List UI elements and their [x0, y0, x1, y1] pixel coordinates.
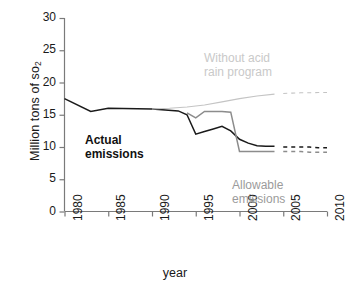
axis-lines	[65, 18, 328, 212]
y-axis-ticks	[60, 19, 65, 213]
x-tick-label: 1990	[158, 194, 172, 221]
annotation-without-acid-rain-program: Without acid rain program	[204, 51, 272, 79]
x-tick-label: 1980	[71, 194, 85, 221]
x-axis-title: year	[0, 266, 350, 280]
y-tick-label: 5	[22, 171, 56, 185]
y-axis-title-subscript: 2	[33, 61, 43, 66]
x-tick-label: 1985	[114, 194, 128, 221]
data-series-line	[283, 152, 327, 153]
y-tick-label: 15	[22, 107, 56, 121]
data-series-line	[283, 93, 327, 94]
y-tick-label: 25	[22, 42, 56, 56]
y-tick-label: 20	[22, 75, 56, 89]
data-series-line	[152, 94, 275, 109]
y-tick-label: 0	[22, 204, 56, 218]
annotation-actual-emissions: Actual emissions	[85, 133, 144, 161]
y-tick-label: 10	[22, 139, 56, 153]
x-tick-label: 1995	[202, 194, 216, 221]
x-tick-label: 2010	[333, 194, 347, 221]
annotation-allowable-emissions: Allowable emissions	[232, 178, 285, 206]
y-tick-label: 30	[22, 10, 56, 24]
x-tick-label: 2005	[289, 194, 303, 221]
chart-figure: Million tons of so2 year 302520151050 19…	[0, 0, 350, 299]
data-series-line	[283, 147, 327, 148]
